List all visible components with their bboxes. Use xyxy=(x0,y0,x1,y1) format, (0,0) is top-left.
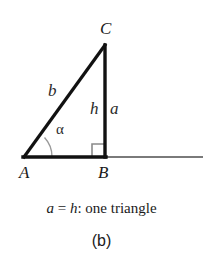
vertex-label-a: A xyxy=(19,164,29,181)
vertex-label-b: B xyxy=(98,164,108,181)
angle-label-alpha: α xyxy=(56,122,64,137)
vertex-label-c: C xyxy=(100,20,111,37)
figure-caption: a = h: one triangle xyxy=(0,200,203,217)
figure-container: C A B b h a α a = h: one triangle (b) xyxy=(0,0,203,263)
right-angle-marker xyxy=(92,144,105,157)
caption-a: a xyxy=(46,200,54,216)
side-label-b: b xyxy=(48,82,57,99)
caption-rest: : one triangle xyxy=(77,200,156,216)
height-label-h: h xyxy=(90,100,99,117)
figure-subcaption: (b) xyxy=(0,232,203,250)
angle-arc xyxy=(45,137,53,157)
caption-equals: = xyxy=(54,200,70,216)
side-label-a: a xyxy=(110,100,119,117)
